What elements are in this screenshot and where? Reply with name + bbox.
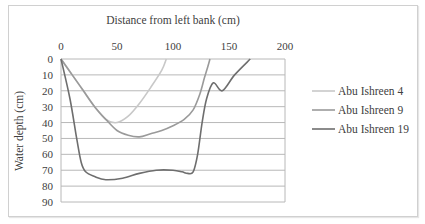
y-tick-label: 40 bbox=[42, 117, 54, 129]
x-tick-label: 150 bbox=[221, 40, 238, 52]
y-tick-label: 20 bbox=[42, 85, 54, 97]
legend-label: Abu Ishreen 19 bbox=[338, 123, 409, 135]
series-lines bbox=[61, 59, 250, 180]
legend-label: Abu Ishreen 4 bbox=[338, 85, 403, 97]
x-tick-label: 0 bbox=[58, 40, 64, 52]
x-axis-ticks: 050100150200 bbox=[58, 40, 294, 52]
y-tick-label: 10 bbox=[42, 69, 54, 81]
y-axis-ticks: 0102030405060708090 bbox=[42, 53, 54, 208]
x-axis-title: Distance from left bank (cm) bbox=[106, 14, 240, 27]
y-tick-label: 30 bbox=[42, 101, 54, 113]
y-tick-label: 90 bbox=[42, 196, 54, 208]
gridlines bbox=[61, 59, 285, 202]
legend: Abu Ishreen 4Abu Ishreen 9Abu Ishreen 19 bbox=[312, 85, 409, 135]
y-tick-label: 50 bbox=[42, 132, 54, 144]
legend-item: Abu Ishreen 9 bbox=[312, 104, 403, 116]
x-tick-label: 50 bbox=[112, 40, 124, 52]
y-axis-title: Water depth (cm) bbox=[13, 91, 26, 171]
legend-label: Abu Ishreen 9 bbox=[338, 104, 403, 116]
series-line-abu-ishreen-19 bbox=[61, 59, 250, 180]
x-tick-label: 200 bbox=[277, 40, 294, 52]
y-tick-label: 80 bbox=[42, 180, 54, 192]
x-tick-label: 100 bbox=[165, 40, 182, 52]
y-tick-label: 70 bbox=[42, 164, 54, 176]
y-tick-label: 60 bbox=[42, 148, 54, 160]
legend-item: Abu Ishreen 19 bbox=[312, 123, 409, 135]
y-tick-label: 0 bbox=[48, 53, 54, 65]
line-chart: 050100150200 0102030405060708090 Distanc… bbox=[0, 0, 425, 224]
legend-item: Abu Ishreen 4 bbox=[312, 85, 403, 97]
series-line-abu-ishreen-9 bbox=[61, 59, 210, 137]
